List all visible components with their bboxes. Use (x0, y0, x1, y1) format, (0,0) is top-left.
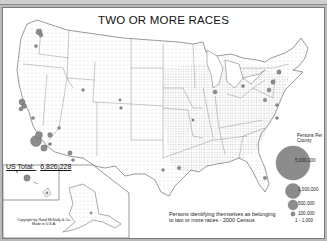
legend-label-100k: 100,000 (298, 211, 315, 216)
legend-title-line: County (297, 138, 327, 143)
top-strip (0, 0, 327, 5)
us-dot-density-map (3, 8, 324, 238)
us-total-value: 6,826,228 (40, 163, 71, 170)
copyright-notice: Copyright by Rand McNally & Co. Made in … (9, 218, 79, 227)
alaska-hawaii-inset (3, 165, 129, 238)
us-total: US Total: 6,826,228 (6, 163, 71, 170)
map-frame: TWO OR MORE RACES (2, 7, 325, 239)
legend-label-500k: 500,000 (298, 201, 315, 206)
map-description: Persons identifying themselves as belong… (169, 211, 279, 223)
legend-label-dot: 1 - 1,000 (295, 218, 313, 223)
legend-label-5m: 5,000,000 (295, 158, 315, 163)
legend-title: Persons Per County (297, 133, 327, 143)
made-in-line: Made in U.S.A. (9, 222, 79, 226)
us-total-label: US Total: (6, 163, 34, 170)
legend-label-1m: 1,000,000 (298, 187, 318, 192)
